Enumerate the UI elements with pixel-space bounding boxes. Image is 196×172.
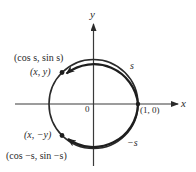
x-axis-label: x [180,97,186,109]
label-arc-minus-s: −s [127,137,138,148]
unit-circle-diagram: y x 0 (cos s, sin s) (x, y) (x, −y) (cos… [0,0,196,172]
label-one-zero: (1, 0) [140,105,160,115]
y-axis-label: y [89,8,95,20]
label-cos-s-sin-s: (cos s, sin s) [14,52,63,64]
origin-label: 0 [85,104,90,114]
point-cos-neg-s [60,133,65,138]
label-arc-s: s [130,60,134,71]
label-x-y: (x, y) [30,66,51,78]
label-x-neg-y: (x, −y) [24,129,52,141]
label-cos-neg-s: (cos −s, sin −s) [6,150,67,162]
arc-s [67,64,139,104]
point-cos-s-sin-s [60,70,65,75]
